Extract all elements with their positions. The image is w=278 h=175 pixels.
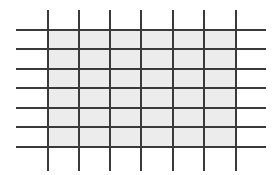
- grid-diagram: [0, 0, 278, 175]
